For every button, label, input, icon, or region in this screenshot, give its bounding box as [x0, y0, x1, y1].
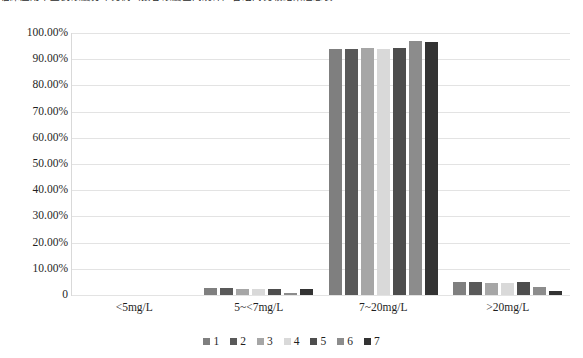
legend-item[interactable]: 4: [284, 336, 300, 348]
bar[interactable]: [409, 41, 422, 295]
bar[interactable]: [377, 49, 390, 295]
y-axis-tick-label: 10.00%: [2, 263, 68, 275]
legend-label: 6: [347, 336, 353, 348]
plot-area: [72, 33, 570, 295]
legend-item[interactable]: 1: [203, 336, 219, 348]
x-axis-tick-label: <5mg/L: [72, 300, 197, 314]
legend-item[interactable]: 2: [230, 336, 246, 348]
legend-label: 7: [374, 336, 380, 348]
bar[interactable]: [220, 288, 233, 295]
bar[interactable]: [517, 282, 530, 295]
gridline: [72, 295, 570, 296]
bar[interactable]: [345, 49, 358, 295]
legend-swatch-icon: [230, 338, 237, 345]
legend-swatch-icon: [284, 338, 291, 345]
y-axis-tick-label: 40.00%: [2, 184, 68, 196]
bar[interactable]: [533, 287, 546, 295]
top-caption-text: 临床应用中血药浓度分布比例（按谷浓度区间统计）各组间比较结果汇总表: [0, 0, 583, 3]
y-axis-tick-label: 90.00%: [2, 53, 68, 65]
bar[interactable]: [284, 293, 297, 295]
legend-swatch-icon: [364, 338, 371, 345]
legend-label: 4: [294, 336, 300, 348]
legend-label: 2: [240, 336, 246, 348]
chart-page: 临床应用中血药浓度分布比例（按谷浓度区间统计）各组间比较结果汇总表 010.00…: [0, 0, 583, 358]
legend-swatch-icon: [203, 338, 210, 345]
bar[interactable]: [501, 283, 514, 295]
x-axis-tick-labels: <5mg/L5~<7mg/L7~20mg/L>20mg/L: [72, 300, 570, 318]
bar[interactable]: [268, 289, 281, 295]
legend-label: 5: [320, 336, 326, 348]
bar[interactable]: [204, 288, 217, 295]
y-axis-tick-label: 80.00%: [2, 79, 68, 91]
bar[interactable]: [300, 289, 313, 295]
y-axis-tick-label: 60.00%: [2, 132, 68, 144]
legend-item[interactable]: 7: [364, 336, 380, 348]
bar[interactable]: [252, 289, 265, 295]
x-axis-tick-label: 5~<7mg/L: [197, 300, 322, 314]
bar[interactable]: [425, 42, 438, 295]
legend-swatch-icon: [337, 338, 344, 345]
bar[interactable]: [549, 291, 562, 295]
bar-group: [446, 33, 571, 295]
legend-label: 3: [267, 336, 273, 348]
bar-group: [321, 33, 446, 295]
legend-label: 1: [213, 336, 219, 348]
y-axis-tick-label: 50.00%: [2, 158, 68, 170]
y-axis-tick-label: 0: [2, 289, 68, 301]
legend-item[interactable]: 5: [310, 336, 326, 348]
bar[interactable]: [361, 48, 374, 295]
bar[interactable]: [236, 289, 249, 295]
bar[interactable]: [469, 282, 482, 295]
x-axis-tick-label: >20mg/L: [446, 300, 571, 314]
y-axis-tick-labels: 010.00%20.00%30.00%40.00%50.00%60.00%70.…: [0, 0, 68, 358]
clipped-top-caption: 临床应用中血药浓度分布比例（按谷浓度区间统计）各组间比较结果汇总表: [0, 0, 583, 5]
legend-item[interactable]: 6: [337, 336, 353, 348]
bar[interactable]: [485, 283, 498, 295]
y-axis-tick-label: 20.00%: [2, 237, 68, 249]
y-axis-tick-label: 70.00%: [2, 106, 68, 118]
chart-legend: 1234567: [0, 336, 583, 348]
bar-group: [72, 33, 197, 295]
bar-group: [197, 33, 322, 295]
bar[interactable]: [393, 48, 406, 295]
bar[interactable]: [329, 49, 342, 295]
x-axis-tick-label: 7~20mg/L: [321, 300, 446, 314]
legend-swatch-icon: [310, 338, 317, 345]
legend-swatch-icon: [257, 338, 264, 345]
bar[interactable]: [453, 282, 466, 295]
legend-item[interactable]: 3: [257, 336, 273, 348]
y-axis-tick-label: 30.00%: [2, 210, 68, 222]
y-axis-tick-label: 100.00%: [2, 27, 68, 39]
